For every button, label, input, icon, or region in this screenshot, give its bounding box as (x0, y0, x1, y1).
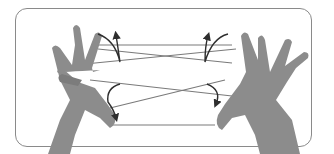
left-hand (48, 25, 115, 154)
right-hand (217, 32, 309, 154)
right-index-rotate-icon (205, 34, 228, 62)
string-figure-illustration (0, 0, 334, 154)
rotation-arrows (98, 34, 228, 118)
